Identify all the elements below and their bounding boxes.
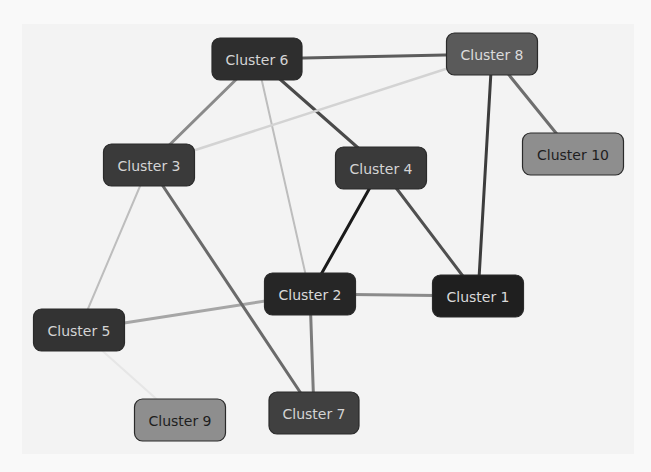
network-graph: Cluster 1Cluster 2Cluster 3Cluster 4Clus… <box>0 0 651 472</box>
node-label: Cluster 3 <box>117 158 180 174</box>
node-label: Cluster 2 <box>278 287 341 303</box>
node-label: Cluster 6 <box>225 52 288 68</box>
edge-cluster-8-to-cluster-1 <box>478 54 492 296</box>
node-cluster-8[interactable]: Cluster 8 <box>447 33 538 75</box>
node-label: Cluster 4 <box>349 161 412 177</box>
edge-cluster-6-to-cluster-2 <box>257 59 310 294</box>
node-label: Cluster 9 <box>148 413 211 429</box>
node-layer: Cluster 1Cluster 2Cluster 3Cluster 4Clus… <box>34 33 624 441</box>
edge-layer <box>79 54 573 420</box>
node-cluster-9[interactable]: Cluster 9 <box>135 399 226 441</box>
node-cluster-1[interactable]: Cluster 1 <box>433 275 524 317</box>
node-label: Cluster 5 <box>47 323 110 339</box>
node-label: Cluster 10 <box>537 147 609 163</box>
node-cluster-5[interactable]: Cluster 5 <box>34 309 125 351</box>
node-label: Cluster 8 <box>460 47 523 63</box>
node-label: Cluster 1 <box>446 289 509 305</box>
node-cluster-4[interactable]: Cluster 4 <box>336 147 427 189</box>
node-cluster-7[interactable]: Cluster 7 <box>269 392 359 434</box>
diagram-canvas: Cluster 1Cluster 2Cluster 3Cluster 4Clus… <box>0 0 651 472</box>
node-cluster-10[interactable]: Cluster 10 <box>523 133 624 175</box>
edge-cluster-3-to-cluster-5 <box>79 165 149 330</box>
node-cluster-6[interactable]: Cluster 6 <box>212 38 302 80</box>
edge-cluster-8-to-cluster-3 <box>149 54 492 165</box>
node-cluster-3[interactable]: Cluster 3 <box>104 144 195 186</box>
node-cluster-2[interactable]: Cluster 2 <box>265 273 356 315</box>
node-label: Cluster 7 <box>282 406 345 422</box>
